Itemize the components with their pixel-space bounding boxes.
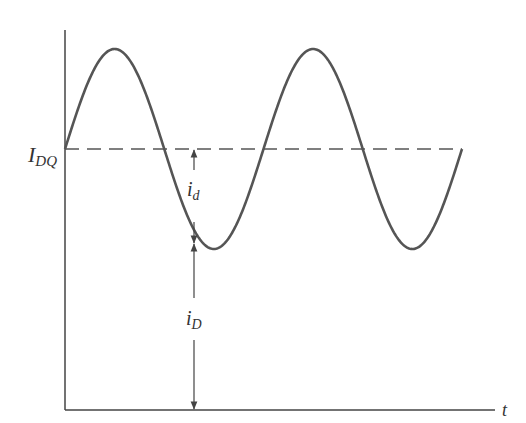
time-axis-label: t: [502, 400, 508, 420]
idq-label: IDQ: [27, 142, 57, 169]
iD-label: iD: [186, 307, 202, 332]
waveform-diagram: IDQ id iD t: [0, 0, 526, 423]
id-label: id: [187, 178, 201, 203]
